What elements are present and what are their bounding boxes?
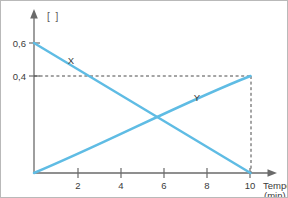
series-label-x: X <box>68 55 75 66</box>
x-tick-label-2: 2 <box>75 180 80 191</box>
x-tick-label-6: 6 <box>161 180 166 191</box>
x-tick-label-8: 8 <box>204 180 209 191</box>
series-line-x <box>34 43 251 173</box>
chart-plot-area: [ ] 0,6 0,4 2 4 6 8 10 Tempo (min) X Y <box>1 1 288 198</box>
x-axis-unit: (min) <box>264 190 286 198</box>
x-axis-arrow-icon <box>268 169 278 177</box>
y-tick-label-0.4: 0,4 <box>13 71 26 82</box>
x-axis <box>34 169 277 177</box>
x-tick-label-10: 10 <box>245 180 256 191</box>
y-tick-label-0.6: 0,6 <box>13 38 26 49</box>
series-line-y <box>34 76 251 173</box>
series-label-y: Y <box>194 92 201 103</box>
x-tick-label-4: 4 <box>118 180 123 191</box>
y-axis-title: [ ] <box>47 11 60 22</box>
y-axis-arrow-icon <box>30 9 38 19</box>
y-axis <box>30 9 38 173</box>
chart-figure: [ ] 0,6 0,4 2 4 6 8 10 Tempo (min) X Y <box>0 0 288 198</box>
